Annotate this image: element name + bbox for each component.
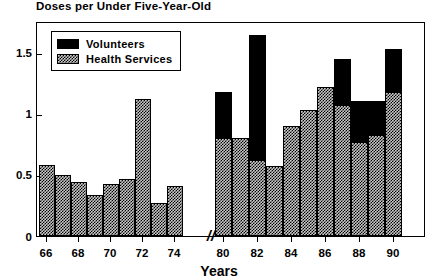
bar-83 [266,166,283,236]
bar-segment-volunteers [385,49,402,92]
bar-86 [317,87,334,236]
y-tick-label-1: 1 [26,108,32,120]
bar-80 [215,92,232,236]
bar-segment-health-services [283,126,300,236]
x-tick-label-66: 66 [40,247,53,259]
y-tick-label-0_5: 0.5 [16,169,32,181]
bar-segment-health-services [119,179,135,236]
x-tick-label-82: 82 [251,247,264,259]
bar-segment-health-services [334,105,351,236]
plot-area: Volunteers Health Services [36,22,425,237]
bar-84 [283,126,300,236]
legend: Volunteers Health Services [51,31,181,71]
bar-segment-health-services [151,203,167,236]
x-tick-label-88: 88 [353,247,366,259]
x-tick-mark-80 [223,237,224,242]
bar-89 [368,101,385,236]
bar-segment-health-services [300,110,317,236]
bar-68 [71,182,87,236]
bar-88 [351,101,368,236]
bar-segment-health-services [55,175,71,236]
bar-segment-volunteers [334,59,351,105]
x-tick-mark-70 [110,237,111,242]
legend-label-health-services: Health Services [86,53,172,65]
bar-segment-volunteers [215,92,232,138]
bar-segment-health-services [71,182,87,236]
bar-segment-health-services [39,165,55,236]
bar-67 [55,175,71,236]
x-tick-label-68: 68 [72,247,85,259]
x-tick-label-86: 86 [319,247,332,259]
x-axis-title: Years [0,263,438,279]
bar-73 [151,203,167,236]
x-tick-label-70: 70 [104,247,117,259]
bar-segment-health-services [266,166,283,236]
chart-title: Doses per Under Five-Year-Old [36,0,211,12]
bar-segment-health-services [87,195,103,236]
bar-90 [385,49,402,236]
x-tick-mark-66 [46,237,47,242]
x-tick-label-80: 80 [217,247,230,259]
bar-segment-health-services [249,160,266,236]
legend-item-health-services: Health Services [57,51,172,66]
bar-72 [135,99,151,236]
bar-69 [87,195,103,236]
x-tick-mark-82 [257,237,258,242]
bar-87 [334,59,351,236]
bar-segment-health-services [317,87,334,236]
bar-segment-health-services [167,186,183,236]
bar-segment-volunteers [351,101,368,142]
bar-segment-health-services [368,135,385,236]
bar-81 [232,138,249,236]
bar-segment-health-services [232,138,249,236]
x-tick-mark-84 [291,237,292,242]
x-tick-label-84: 84 [285,247,298,259]
bar-82 [249,35,266,236]
x-tick-label-90: 90 [387,247,400,259]
x-tick-mark-68 [78,237,79,242]
x-tick-mark-74 [174,237,175,242]
axis-break-icon: // [207,228,215,243]
bar-segment-health-services [135,99,151,236]
x-tick-label-74: 74 [168,247,181,259]
x-axis: 66 68 70 72 74 80 82 84 86 88 90 // Year… [0,237,438,279]
bar-74 [167,186,183,236]
bar-66 [39,165,55,236]
x-tick-mark-88 [359,237,360,242]
bar-71 [119,179,135,236]
bar-segment-health-services [215,138,232,236]
bar-segment-health-services [103,184,119,236]
legend-swatch-health-services-icon [57,54,79,64]
legend-item-volunteers: Volunteers [57,36,172,51]
bar-segment-volunteers [249,35,266,160]
bar-70 [103,184,119,236]
x-tick-mark-90 [393,237,394,242]
x-tick-mark-86 [325,237,326,242]
bar-segment-volunteers [368,101,385,135]
x-tick-mark-72 [142,237,143,242]
x-tick-label-72: 72 [136,247,149,259]
chart-container: Doses per Under Five-Year-Old 0 0.5 1 1.… [0,0,438,279]
bar-segment-health-services [385,92,402,236]
y-tick-label-1_5: 1.5 [16,47,32,59]
bar-85 [300,110,317,236]
bar-segment-health-services [351,142,368,236]
legend-swatch-volunteers-icon [57,39,79,49]
legend-label-volunteers: Volunteers [86,38,145,50]
